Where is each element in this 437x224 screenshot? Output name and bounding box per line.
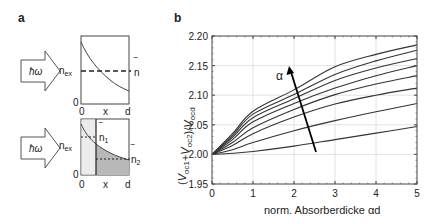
photon-arrow-bottom: ħω: [21, 128, 60, 168]
x-tick-label: 3: [332, 188, 338, 199]
x-axis-label: norm. Absorberdicke αd: [264, 204, 380, 216]
x-tick-label: 1: [250, 188, 256, 199]
shade-left-segment: [82, 120, 97, 175]
x-tick-0-top: 0: [79, 106, 85, 117]
alpha-label: α: [276, 69, 283, 83]
panel-b-letter: b: [174, 11, 181, 25]
photon-arrow-top: ħω: [21, 51, 60, 91]
excitation-profile-top: nex n ‾ 0 0 x d: [59, 36, 140, 117]
avg-label-top: n: [134, 67, 140, 78]
avg2-label: n2: [131, 154, 141, 166]
x-tick-d-top: d: [125, 106, 131, 117]
curve-1: [212, 127, 417, 155]
x-tick-label: 2: [291, 188, 297, 199]
avg2-bar: ‾: [130, 144, 135, 155]
panel-a-letter: a: [18, 11, 25, 25]
y-tick-label: 1.95: [189, 179, 209, 190]
avg-bar-top: ‾: [133, 57, 138, 68]
x-tick-label: 0: [209, 188, 215, 199]
avg1-bar: ‾: [98, 122, 103, 133]
y-tick-label: 2.20: [189, 31, 209, 42]
x-tick-0-bottom: 0: [79, 179, 85, 190]
photon-label-top: ħω: [29, 66, 43, 77]
data-curves: [212, 45, 417, 155]
x-tick-x-top: x: [103, 106, 108, 117]
curve-8: [212, 45, 417, 155]
y-tick-label: 2.00: [189, 149, 209, 160]
y-tick-label: 2.10: [189, 90, 209, 101]
y-label-nex-bottom: nex: [59, 140, 72, 152]
line-chart: 0123451.952.002.052.102.152.20 norm. Abs…: [176, 31, 420, 216]
x-tick-label: 5: [414, 188, 420, 199]
x-tick-x-bottom: x: [103, 179, 108, 190]
y-tick-label: 2.15: [189, 61, 209, 72]
photon-label-bottom: ħω: [29, 143, 43, 154]
figure: a ħω nex n ‾ 0 0 x d ħω nex n1 ‾ n2 ‾ 0: [0, 0, 437, 224]
alpha-arrowhead-icon: [287, 66, 295, 75]
y-axis-label: (Voc1+Voc2)/Vocd: [176, 107, 197, 185]
excitation-profile-bottom: nex n1 ‾ n2 ‾ 0 0 x d: [59, 119, 141, 190]
x-tick-d-bottom: d: [125, 179, 131, 190]
x-tick-label: 4: [373, 188, 379, 199]
y-label-nex-top: nex: [59, 65, 72, 77]
